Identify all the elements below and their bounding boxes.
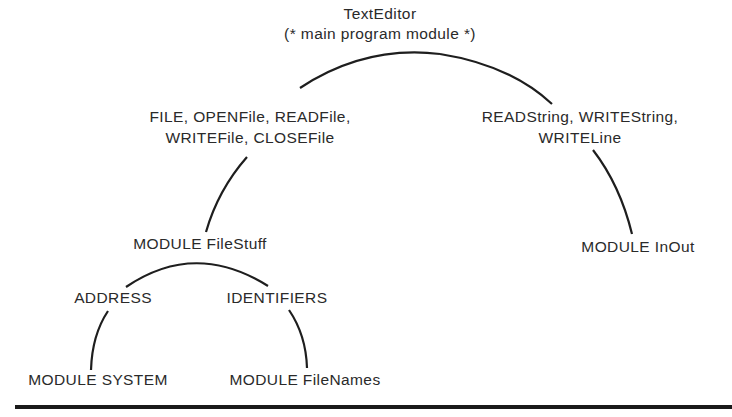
edge-to-inout [593,150,632,234]
inout-imports-line2: WRITELine [539,128,622,148]
inout-imports-line1: READString, WRITEString, [482,107,679,127]
filestuff-imports-line1: FILE, OPENFile, READFile, [149,107,350,127]
filenames-imports: IDENTIFIERS [227,288,328,308]
edge-to-filestuff [206,157,247,232]
node-system: MODULE SYSTEM [28,370,168,390]
edge-to-system [91,311,108,370]
edge-to-filenames [289,310,307,368]
arc-root-left [300,52,440,88]
connector-lines [0,0,732,417]
filestuff-imports-line2: WRITEFile, CLOSEFile [165,128,334,148]
bottom-rule [15,405,732,409]
root-module-comment: (* main program module *) [284,24,476,44]
node-filestuff: MODULE FileStuff [133,234,267,254]
arc-root-right [440,54,552,104]
root-module-name: TextEditor [344,4,417,24]
arc-filestuff [126,263,268,287]
node-filenames: MODULE FileNames [229,370,380,390]
system-imports: ADDRESS [74,288,152,308]
node-inout: MODULE InOut [581,237,694,257]
